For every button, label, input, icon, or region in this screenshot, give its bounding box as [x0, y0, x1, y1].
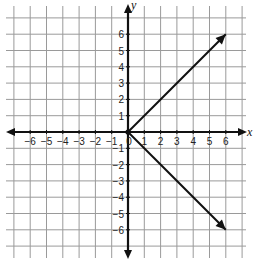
y-tick-label: −4	[113, 192, 125, 203]
x-tick-label: −5	[41, 136, 53, 147]
x-axis-left-arrow-icon	[6, 128, 15, 136]
x-tick-label: 2	[158, 136, 164, 147]
y-tick-label: −2	[113, 160, 125, 171]
y-tick-label: −6	[113, 225, 125, 236]
coordinate-plane: −6−5−4−3−2−10123456654321−1−2−3−4−5−6 x …	[0, 0, 253, 261]
x-tick-label: 4	[190, 136, 196, 147]
x-tick-label: −3	[73, 136, 85, 147]
x-tick-label: −2	[90, 136, 102, 147]
x-tick-label: −4	[57, 136, 69, 147]
y-tick-label: 6	[118, 29, 124, 40]
x-axis-label: x	[246, 125, 253, 139]
y-tick-label: −1	[113, 143, 125, 154]
x-tick-label: 3	[174, 136, 180, 147]
y-axis-down-arrow-icon	[124, 250, 132, 259]
x-tick-label: −6	[24, 136, 36, 147]
axes	[6, 4, 247, 259]
y-tick-label: 3	[118, 78, 124, 89]
x-tick-label: 5	[207, 136, 213, 147]
y-tick-label: 4	[118, 62, 124, 73]
y-tick-label: 5	[118, 46, 124, 57]
x-tick-label: 6	[223, 136, 229, 147]
x-tick-label: 0	[126, 136, 132, 147]
y-tick-label: −5	[113, 209, 125, 220]
y-axis-label: y	[130, 0, 137, 12]
y-tick-label: 2	[118, 94, 124, 105]
y-tick-label: 1	[118, 111, 124, 122]
y-tick-label: −3	[113, 176, 125, 187]
